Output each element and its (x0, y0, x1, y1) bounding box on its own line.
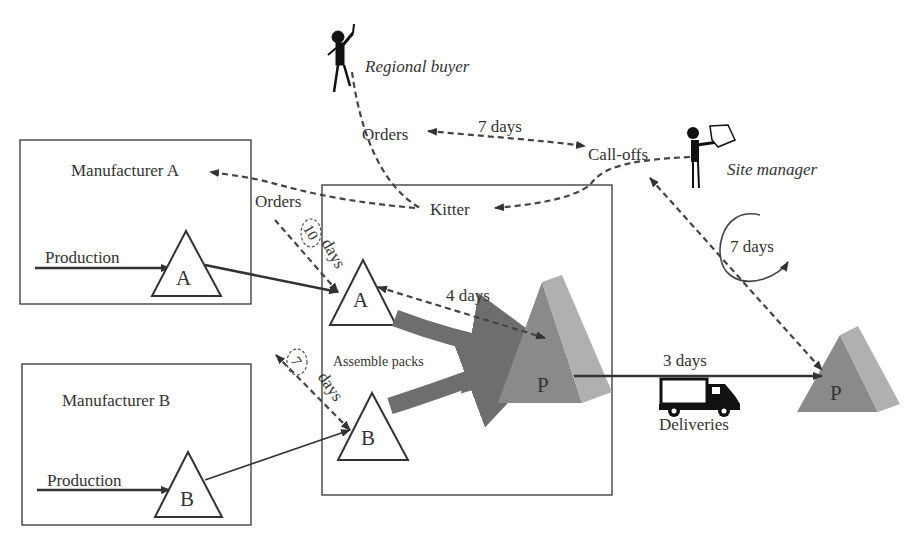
kitter-to-manufacturer-a-arrow (210, 172, 415, 208)
site-pack-label: P (830, 383, 842, 404)
regional-buyer-icon (328, 24, 354, 92)
manufacturer-b-box (22, 364, 251, 525)
deliveries-label: Deliveries (659, 416, 729, 433)
assemble-arrow-a (395, 318, 520, 352)
production-b-label: Production (47, 472, 122, 489)
orders-top-label: Orders (362, 126, 408, 143)
stock-b-manufacturer-label: B (180, 489, 194, 510)
a-to-p-lead-label: 4 days (446, 287, 490, 304)
call-offs-to-kitter-arrow (495, 157, 690, 208)
stock-a-manufacturer-label: A (176, 268, 191, 289)
site-cycle-label: 7 days (730, 238, 774, 255)
diagram-canvas (0, 0, 912, 533)
site-to-p-arrow (650, 178, 822, 370)
production-a-label: Production (45, 249, 120, 266)
delivery-lead-label: 3 days (663, 352, 707, 369)
flow-b-to-kitter (205, 430, 350, 480)
kitter-pack-pyramid (498, 275, 612, 403)
stock-a-kitter-label: A (353, 290, 368, 311)
kitter-title: Kitter (430, 201, 470, 218)
call-offs-label: Call-offs (588, 146, 648, 163)
orders-a-label: Orders (255, 193, 301, 210)
site-pack-pyramid (797, 326, 900, 412)
regional-buyer-label: Regional buyer (365, 58, 469, 75)
manufacturer-b-title: Manufacturer B (62, 392, 170, 409)
stock-b-kitter-label: B (361, 428, 375, 449)
kitter-pack-label: P (537, 375, 549, 396)
assemble-packs-label: Assemble packs (333, 355, 424, 369)
delivery-truck-icon (659, 379, 740, 417)
site-manager-label: Site manager (727, 161, 817, 178)
orders-top-lead-label: 7 days (478, 118, 522, 135)
manufacturer-a-title: Manufacturer A (71, 162, 179, 179)
